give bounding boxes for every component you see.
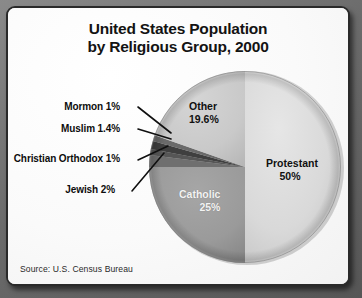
callout-label-muslim: Muslim 1.4% — [61, 123, 120, 134]
pie-label-protestant-name: Protestant — [266, 157, 318, 170]
pie-label-protestant: Protestant 50% — [266, 157, 318, 183]
chart-card: United States Population by Religious Gr… — [6, 6, 350, 286]
source-caption: Source: U.S. Census Bureau — [20, 264, 133, 274]
pie-label-protestant-value: 50% — [266, 170, 318, 183]
pie-label-catholic: Catholic 25% — [179, 188, 220, 214]
pie-label-catholic-name: Catholic — [179, 188, 220, 201]
pie-label-catholic-value: 25% — [179, 201, 220, 214]
callout-label-christian-orthodox: Christian Orthodox 1% — [14, 153, 120, 164]
pie-chart-svg — [8, 8, 350, 286]
callout-label-jewish: Jewish 2% — [65, 184, 115, 195]
pie-label-other-name: Other — [189, 100, 219, 113]
callout-label-mormon: Mormon 1% — [64, 101, 120, 112]
pie-chart — [8, 8, 350, 286]
pie-label-other: Other 19.6% — [189, 100, 219, 126]
pie-label-other-value: 19.6% — [189, 113, 219, 126]
screenshot-root: United States Population by Religious Gr… — [0, 0, 362, 298]
